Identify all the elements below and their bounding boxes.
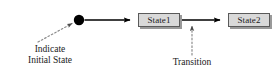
state-node-state1[interactable]: State1 <box>138 13 180 27</box>
state-node-label: State2 <box>237 16 260 25</box>
callout-transition: Transition <box>152 57 232 68</box>
callout-transition-line1: Transition <box>152 57 232 68</box>
initial-state-marker-icon <box>74 15 84 25</box>
callout-leader-initial-state <box>38 24 72 43</box>
state-node-state2[interactable]: State2 <box>228 13 270 27</box>
state-diagram-canvas: State1 State2 Indicate Initial State Tra… <box>0 0 277 70</box>
state-node-label: State1 <box>147 16 170 25</box>
callout-initial-state-line2: Initial State <box>8 55 92 66</box>
callout-initial-state-line1: Indicate <box>8 44 92 55</box>
callout-initial-state: Indicate Initial State <box>8 44 92 66</box>
